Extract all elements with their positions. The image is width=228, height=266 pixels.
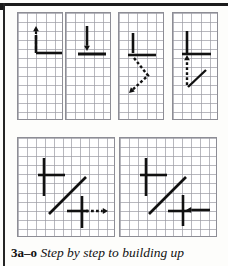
grid-lines [120,138,217,237]
diagonal-stroke [149,177,186,214]
figure-page: 3a–o Step by step to building up [0,0,228,266]
solid-arrow-down [84,26,90,51]
figure-caption-text: Step by step to building up [40,245,184,260]
figure-caption-label: 3a–o [11,245,37,260]
grid-lines [18,13,63,120]
dashed-arrow-diagonal-down-left [129,58,148,93]
diagonal-stroke [188,70,206,87]
panel-step-2 [65,12,111,120]
grid-lines [18,138,115,237]
grid-lines [173,13,218,120]
dashed-arrow-up [184,55,190,85]
panel-step-3 [118,12,164,120]
panel-step-4 [172,12,218,120]
grid-lines [66,13,111,120]
figure-panel-container [0,0,228,266]
panel-step-6 [119,137,217,237]
figure-caption: 3a–o Step by step to building up [11,245,226,261]
panel-step-5 [17,137,115,237]
panel-step-1 [17,12,63,120]
